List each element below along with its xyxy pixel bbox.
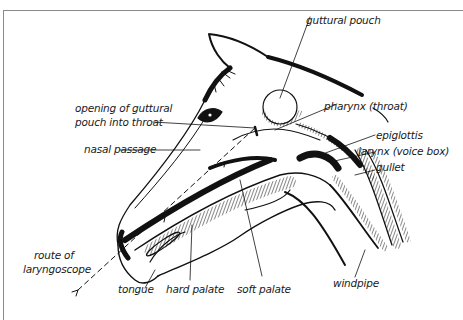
label-pharynx: pharynx (throat) xyxy=(324,100,408,112)
label-guttural-pouch: guttural pouch xyxy=(306,14,381,26)
label-opening-guttural-pouch-line2: pouch into throat xyxy=(75,116,163,128)
label-hard-palate: hard palate xyxy=(166,283,224,295)
ear-outline xyxy=(209,34,268,68)
label-gullet: gullet xyxy=(376,161,405,173)
label-route-line2: laryngoscope xyxy=(23,263,91,275)
epiglottis-shape xyxy=(300,154,338,168)
label-tongue: tongue xyxy=(118,283,154,295)
label-nasal-passage: nasal passage xyxy=(84,143,156,155)
label-opening-guttural-pouch-line1: opening of guttural xyxy=(75,102,172,114)
label-route-line1: route of xyxy=(34,249,74,261)
label-larynx: larynx (voice box) xyxy=(358,145,449,157)
label-epiglottis: epiglottis xyxy=(376,129,423,141)
label-soft-palate: soft palate xyxy=(237,283,291,295)
mane-crest xyxy=(268,57,362,95)
windpipe-tube xyxy=(330,185,378,248)
lower-jaw xyxy=(158,202,335,276)
label-windpipe: windpipe xyxy=(333,277,379,289)
forelock xyxy=(205,68,230,100)
